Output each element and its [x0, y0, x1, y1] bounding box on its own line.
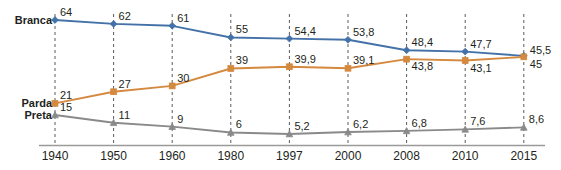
- marker-branca-2008: [403, 47, 410, 54]
- value-label-preta-2010: 7,6: [470, 115, 485, 127]
- value-label-preta-2008: 6,8: [412, 117, 427, 129]
- value-label-parda-1997: 39,9: [294, 53, 315, 65]
- value-label-branca-1997: 54,4: [294, 25, 315, 37]
- x-tick-2008: 2008: [393, 149, 420, 163]
- value-label-preta-1940: 15: [60, 101, 72, 113]
- marker-parda-1940: [52, 100, 58, 106]
- series-legend: BrancaPardaPreta: [15, 14, 53, 121]
- marker-parda-1997: [287, 64, 293, 70]
- series-label-branca: Branca: [15, 14, 53, 26]
- value-label-branca-2015: 45,5: [530, 44, 551, 56]
- x-tick-1950: 1950: [100, 149, 127, 163]
- x-tick-1997: 1997: [276, 149, 303, 163]
- value-label-preta-1950: 11: [119, 109, 130, 121]
- value-label-parda-2010: 43,1: [470, 62, 491, 74]
- x-tick-2015: 2015: [510, 149, 537, 163]
- series-label-parda: Parda: [21, 97, 52, 109]
- x-tick-2000: 2000: [335, 149, 362, 163]
- value-label-parda-2008: 43,8: [412, 60, 433, 72]
- marker-parda-2000: [345, 65, 351, 71]
- value-label-parda-1980: 39: [236, 54, 248, 66]
- value-label-parda-2015: 45: [530, 58, 542, 70]
- line-chart: 6462615554,453,848,447,745,52127303939,9…: [0, 0, 561, 170]
- value-label-branca-1940: 64: [60, 6, 72, 18]
- value-label-preta-1997: 5,2: [294, 120, 309, 132]
- marker-branca-2010: [462, 48, 469, 55]
- marker-parda-1980: [228, 66, 234, 72]
- value-label-parda-1940: 21: [60, 89, 72, 101]
- x-tick-1960: 1960: [159, 149, 186, 163]
- value-label-branca-1980: 55: [236, 23, 248, 35]
- marker-parda-2015: [521, 54, 527, 60]
- chart-canvas: 6462615554,453,848,447,745,52127303939,9…: [0, 0, 561, 170]
- marker-branca-1997: [286, 35, 293, 42]
- value-label-preta-1960: 9: [177, 113, 183, 125]
- marker-branca-1960: [169, 22, 176, 29]
- value-label-parda-2000: 39,1: [353, 54, 374, 66]
- x-tick-1940: 1940: [42, 149, 69, 163]
- value-label-parda-1960: 30: [177, 72, 189, 84]
- value-label-branca-2008: 48,4: [412, 36, 433, 48]
- marker-parda-1950: [111, 89, 117, 95]
- x-tick-2010: 2010: [452, 149, 479, 163]
- marker-parda-2010: [462, 58, 468, 64]
- x-tick-1980: 1980: [217, 149, 244, 163]
- marker-parda-2008: [404, 56, 410, 62]
- marker-branca-2000: [345, 36, 352, 43]
- value-label-branca-1960: 61: [177, 12, 189, 24]
- value-label-branca-2010: 47,7: [470, 38, 491, 50]
- series-label-preta: Preta: [24, 109, 52, 121]
- value-label-preta-2015: 8,6: [529, 113, 544, 125]
- value-label-branca-2000: 53,8: [353, 26, 374, 38]
- marker-branca-1950: [110, 20, 117, 27]
- marker-branca-1980: [227, 34, 234, 41]
- value-label-preta-2000: 6,2: [353, 118, 368, 130]
- value-label-parda-1950: 27: [119, 78, 131, 90]
- marker-parda-1960: [169, 83, 175, 89]
- value-label-preta-1980: 6: [236, 118, 242, 130]
- value-label-branca-1950: 62: [119, 10, 131, 22]
- marker-branca-1940: [52, 17, 59, 24]
- x-tick-labels: 194019501960198019972000200820102015: [42, 149, 538, 163]
